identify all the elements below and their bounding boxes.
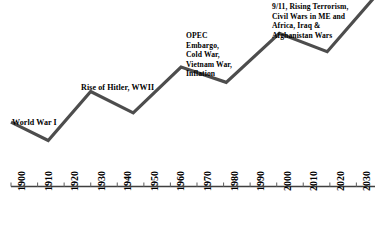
x-tick-label-2020: 2020 (335, 171, 346, 191)
x-tick-label-1900: 1900 (16, 171, 27, 191)
annotation-world-war-i: World War I (12, 118, 57, 128)
annotation-nine-eleven-terrorism-wars: 9/11, Rising Terrorism, Civil Wars in ME… (272, 2, 348, 40)
x-tick-label-1940: 1940 (122, 171, 133, 191)
x-tick-label-1950: 1950 (149, 171, 160, 191)
chart-figure: 1900191019201930194019501960197019801990… (0, 0, 379, 231)
x-tick-label-2010: 2010 (308, 171, 319, 191)
x-tick-label-1960: 1960 (175, 171, 186, 191)
x-tick-label-2030: 2030 (361, 171, 372, 191)
x-tick-label-1980: 1980 (229, 171, 240, 191)
annotation-rise-of-hitler-wwii: Rise of Hitler, WWII (81, 83, 154, 93)
x-axis-group (11, 183, 375, 187)
x-tick-label-1930: 1930 (96, 171, 107, 191)
annotation-opec-cold-war-vietnam-inflation: OPEC Embargo, Cold War, Vietnam War, Inf… (186, 31, 232, 79)
x-tick-label-2000: 2000 (282, 171, 293, 191)
x-tick-label-1920: 1920 (69, 171, 80, 191)
x-tick-label-1990: 1990 (255, 171, 266, 191)
x-tick-label-1970: 1970 (202, 171, 213, 191)
x-tick-label-1910: 1910 (43, 171, 54, 191)
